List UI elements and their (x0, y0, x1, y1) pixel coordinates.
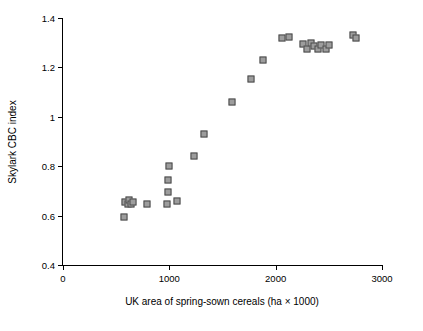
data-point (201, 131, 208, 138)
data-point (191, 153, 198, 160)
data-point (259, 56, 266, 63)
data-point (229, 98, 236, 105)
y-axis-tick (58, 18, 63, 19)
data-point (165, 176, 172, 183)
x-axis-tick-label: 1000 (159, 273, 180, 284)
y-axis-tick (58, 166, 63, 167)
data-point (248, 75, 255, 82)
scatter-chart: Skylark CBC index 0.40.60.811.21.4010002… (0, 0, 423, 331)
x-axis-label: UK area of spring-sown cereals (ha × 100… (62, 296, 382, 307)
x-axis-tick (276, 265, 277, 270)
data-point (173, 197, 180, 204)
data-point (326, 42, 333, 49)
data-point (166, 163, 173, 170)
x-axis-tick-label: 0 (60, 273, 65, 284)
data-point (164, 189, 171, 196)
x-axis-tick (382, 265, 383, 270)
y-axis-tick-label: 0.4 (42, 260, 55, 271)
x-axis-tick (169, 265, 170, 270)
data-point (130, 199, 137, 206)
data-point (279, 34, 286, 41)
y-axis-tick-label: 1.4 (42, 13, 55, 24)
y-axis-tick-label: 0.8 (42, 161, 55, 172)
y-axis-tick-label: 0.6 (42, 210, 55, 221)
x-axis-tick-label: 2000 (265, 273, 286, 284)
data-point (163, 201, 170, 208)
plot-area: 0.40.60.811.21.40100020003000 (62, 18, 382, 266)
data-point (144, 201, 151, 208)
data-point (286, 33, 293, 40)
x-axis-tick (63, 265, 64, 270)
data-point (121, 213, 128, 220)
data-point (353, 34, 360, 41)
y-axis-tick-label: 1 (50, 111, 55, 122)
y-axis-tick (58, 117, 63, 118)
y-axis-tick-label: 1.2 (42, 62, 55, 73)
y-axis-label: Skylark CBC index (6, 18, 20, 266)
x-axis-tick-label: 3000 (371, 273, 392, 284)
y-axis-tick (58, 67, 63, 68)
y-axis-tick (58, 216, 63, 217)
plot-inner (63, 18, 382, 265)
